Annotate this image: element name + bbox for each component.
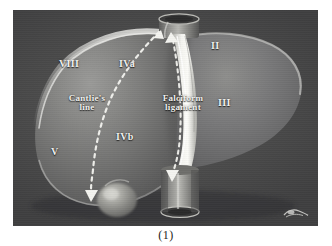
segment-label-ii: II [211,41,219,52]
figure-caption: (1) [0,228,332,243]
segment-label-viii: VIII [59,59,79,70]
artist-signature-mark [282,206,310,219]
illustration-panel: VIII IVa II III IVb V Cantlie's line Fal… [13,10,318,226]
inferior-vena-cava-inferior-stump [161,165,199,217]
illustration-canvas: VIII IVa II III IVb V Cantlie's line Fal… [13,10,318,226]
segment-label-iii: III [218,98,231,109]
liver-illustration-svg [13,10,318,226]
figure-root: VIII IVa II III IVb V Cantlie's line Fal… [0,0,332,246]
liver-right-lobe [35,31,180,205]
cantlie-line-label: Cantlie's line [51,94,123,113]
cantlie-line-label-line2: line [51,103,123,112]
falciform-ligament-label-line2: ligament [147,103,219,112]
falciform-ligament-label: Falciform ligament [147,94,219,113]
segment-label-iva: IVa [119,59,135,70]
segment-label-v: V [51,147,59,158]
segment-label-ivb: IVb [116,132,134,143]
